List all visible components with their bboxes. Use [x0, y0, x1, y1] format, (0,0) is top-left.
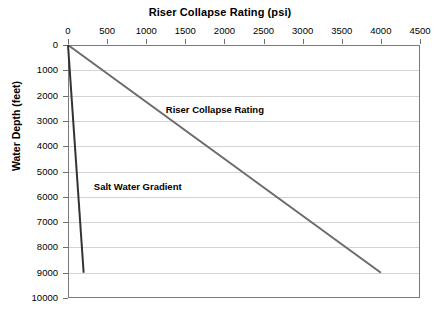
x-axis-tick-label: 2000	[204, 25, 244, 36]
x-axis-tick	[381, 39, 382, 44]
plot-area	[68, 45, 420, 298]
x-axis-tick	[107, 39, 108, 44]
y-axis-tick-label: 3000	[10, 115, 58, 126]
y-axis-tick	[63, 172, 68, 173]
x-axis-tick-label: 1000	[126, 25, 166, 36]
y-axis-tick	[63, 121, 68, 122]
x-axis-tick-label: 4000	[361, 25, 401, 36]
x-axis-tick	[342, 39, 343, 44]
y-axis-tick-label: 9000	[10, 267, 58, 278]
riser-collapse-chart: Riser Collapse Rating (psi) Water Depth …	[0, 0, 440, 313]
y-axis-tick	[63, 247, 68, 248]
gridline-horizontal	[69, 121, 419, 122]
y-axis-tick	[63, 45, 68, 46]
y-axis-tick	[63, 70, 68, 71]
y-axis-tick-label: 7000	[10, 216, 58, 227]
gridline-horizontal	[69, 146, 419, 147]
chart-title: Riser Collapse Rating (psi)	[0, 6, 440, 18]
gridline-horizontal	[69, 273, 419, 274]
y-axis-tick	[63, 298, 68, 299]
y-axis-tick-label: 2000	[10, 90, 58, 101]
x-axis-tick	[224, 39, 225, 44]
y-axis-tick-label: 8000	[10, 241, 58, 252]
gridline-horizontal	[69, 96, 419, 97]
y-axis-tick	[63, 273, 68, 274]
y-axis-tick-label: 4000	[10, 140, 58, 151]
x-axis-tick-label: 2500	[244, 25, 284, 36]
x-axis-tick-label: 0	[48, 25, 88, 36]
x-axis-tick-label: 4500	[400, 25, 440, 36]
y-axis-tick	[63, 96, 68, 97]
x-axis-tick	[420, 39, 421, 44]
gridline-horizontal	[69, 197, 419, 198]
x-axis-tick-label: 1500	[165, 25, 205, 36]
x-axis-tick	[68, 39, 69, 44]
y-axis-tick-label: 5000	[10, 166, 58, 177]
gridline-horizontal	[69, 70, 419, 71]
gridline-horizontal	[69, 247, 419, 248]
y-axis-tick-label: 10000	[10, 292, 58, 303]
y-axis-tick-label: 0	[10, 39, 58, 50]
x-axis-tick	[303, 39, 304, 44]
gridline-horizontal	[69, 222, 419, 223]
y-axis-tick-label: 6000	[10, 191, 58, 202]
x-axis-tick-label: 3500	[322, 25, 362, 36]
y-axis-tick-label: 1000	[10, 64, 58, 75]
series-annotation: Salt Water Gradient	[94, 181, 182, 192]
x-axis-tick	[185, 39, 186, 44]
x-axis-tick	[146, 39, 147, 44]
y-axis-tick	[63, 197, 68, 198]
x-axis-tick-label: 500	[87, 25, 127, 36]
y-axis-tick	[63, 222, 68, 223]
series-annotation: Riser Collapse Rating	[166, 104, 264, 115]
y-axis-tick	[63, 146, 68, 147]
gridline-horizontal	[69, 172, 419, 173]
x-axis-tick	[264, 39, 265, 44]
x-axis-tick-label: 3000	[283, 25, 323, 36]
